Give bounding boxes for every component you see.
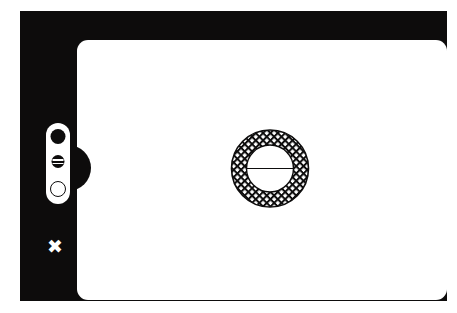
close-icon[interactable]: ✖ [45,236,65,256]
stripe-line [53,159,64,161]
striped-disc-icon[interactable] [52,155,65,168]
cross-hatched-annulus [230,128,310,209]
outer-frame: ✖ [20,11,447,301]
ring-icon[interactable] [50,181,66,197]
side-control-pill[interactable] [46,123,70,204]
figure-canvas: ✖ [0,0,457,313]
annulus-graphic [230,128,310,209]
stripe-line [53,163,64,165]
solid-disc-icon[interactable] [51,129,66,144]
